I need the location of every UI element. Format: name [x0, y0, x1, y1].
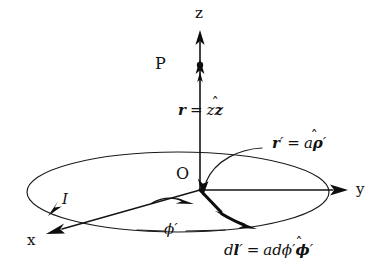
- dl-differential: d: [224, 241, 234, 259]
- r-vector-equals: =: [186, 101, 207, 119]
- y-axis-label: y: [356, 182, 364, 197]
- current-label: I: [62, 192, 68, 207]
- origin-label: O: [176, 166, 189, 182]
- r-prime-symbol: r: [272, 134, 280, 152]
- field-point-dot: [197, 62, 203, 68]
- dl-prime-label: dl′=adϕ′̂ϕ′: [224, 243, 313, 258]
- dl-magnitude-a: a: [263, 241, 272, 259]
- phi-hat-base: ϕ: [296, 241, 310, 259]
- field-point-label: P: [155, 56, 166, 72]
- z-hat-wrap: ̂z: [214, 103, 223, 118]
- x-axis-label: x: [27, 233, 35, 248]
- z-hat-base: z: [214, 101, 223, 119]
- phi-hat-prime-mark: ′: [310, 241, 313, 259]
- phi-hat-wrap: ̂ϕ: [296, 243, 310, 258]
- phi-angle-arrowhead-icon: [176, 197, 194, 204]
- r-prime-vector-label: r′=âρ′: [272, 136, 326, 151]
- rho-hat-base: ρ: [313, 134, 323, 152]
- z-axis-label: z: [195, 6, 203, 21]
- dl-equals: =: [243, 241, 264, 259]
- rho-hat-wrap: ̂ρ: [313, 136, 323, 151]
- phi-angle-symbol: ϕ: [164, 220, 174, 238]
- phi-angle-label: ϕ′: [164, 222, 178, 237]
- r-vector-symbol: r: [178, 101, 186, 119]
- dl-magnitude-d: d: [272, 241, 282, 259]
- current-direction-arrowhead-icon: [48, 200, 62, 216]
- physics-diagram-figure: z y x P O I r=ẑz r′=âρ′ ϕ′ dl′=adϕ′̂ϕ′: [0, 0, 380, 275]
- phi-angle-prime-mark: ′: [174, 220, 177, 238]
- x-axis-line: [62, 190, 200, 229]
- r-prime-equals: =: [283, 134, 304, 152]
- rho-hat-prime-mark: ′: [323, 134, 326, 152]
- r-prime-magnitude: a: [304, 134, 313, 152]
- dl-magnitude-phi: ϕ: [282, 241, 292, 259]
- r-vector-label: r=ẑz: [178, 103, 223, 118]
- dl-tangent-segment: [222, 214, 244, 225]
